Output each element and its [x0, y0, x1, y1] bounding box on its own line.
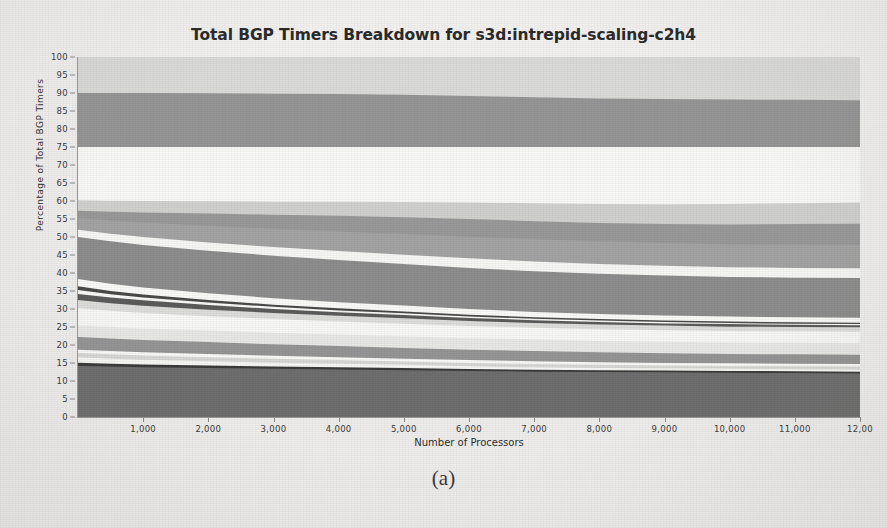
x-tick-label: 11,000 — [779, 424, 811, 434]
chart-title: Total BGP Timers Breakdown for s3d:intre… — [0, 26, 887, 44]
y-tick-label: 50 — [57, 232, 68, 242]
x-tick-mark — [534, 418, 535, 422]
y-tick-label: 40 — [57, 268, 68, 278]
x-tick-label: 9,000 — [652, 424, 678, 434]
x-tick-label: 3,000 — [261, 424, 287, 434]
x-tick-label: 1,000 — [130, 424, 156, 434]
y-tick-mark — [70, 147, 75, 148]
x-tick-label: 6,000 — [456, 424, 482, 434]
y-tick-mark — [70, 291, 75, 292]
x-tick-mark — [208, 418, 209, 422]
y-tick-label: 80 — [57, 124, 68, 134]
y-tick-mark — [70, 327, 75, 328]
y-tick-mark — [70, 237, 75, 238]
y-tick-label: 15 — [57, 358, 68, 368]
figure-caption: (a) — [0, 466, 887, 491]
x-tick-label: 4,000 — [326, 424, 352, 434]
y-tick-mark — [70, 201, 75, 202]
x-tick-mark — [404, 418, 405, 422]
y-tick-label: 30 — [57, 304, 68, 314]
y-tick-label: 95 — [57, 70, 68, 80]
x-tick-label: 5,000 — [391, 424, 417, 434]
y-tick-mark — [70, 165, 75, 166]
x-tick-mark — [795, 418, 796, 422]
x-tick-mark — [665, 418, 666, 422]
y-tick-mark — [70, 57, 75, 58]
y-tick-label: 45 — [57, 250, 68, 260]
y-tick-label: 100 — [51, 52, 68, 62]
y-tick-label: 60 — [57, 196, 68, 206]
y-tick-mark — [70, 129, 75, 130]
x-tick-label: 2,000 — [195, 424, 221, 434]
y-tick-label: 85 — [57, 106, 68, 116]
figure-chart: Total BGP Timers Breakdown for s3d:intre… — [0, 0, 887, 470]
plot-area — [78, 57, 860, 417]
x-tick-mark — [469, 418, 470, 422]
x-tick-mark — [599, 418, 600, 422]
y-tick-label: 20 — [57, 340, 68, 350]
x-tick-mark — [339, 418, 340, 422]
y-tick-mark — [70, 381, 75, 382]
y-tick-label: 70 — [57, 160, 68, 170]
x-tick-mark — [730, 418, 731, 422]
y-tick-label: 35 — [57, 286, 68, 296]
y-tick-label: 25 — [57, 322, 68, 332]
y-tick-label: 65 — [57, 178, 68, 188]
y-tick-mark — [70, 309, 75, 310]
y-tick-mark — [70, 255, 75, 256]
y-tick-label: 10 — [57, 376, 68, 386]
y-tick-mark — [70, 93, 75, 94]
y-tick-mark — [70, 219, 75, 220]
y-axis-title: Percentage of Total BGP Timers — [35, 0, 45, 325]
y-tick-label: 90 — [57, 88, 68, 98]
y-tick-mark — [70, 111, 75, 112]
area-band — [78, 366, 860, 417]
y-tick-mark — [70, 399, 75, 400]
y-tick-label: 75 — [57, 142, 68, 152]
stacked-area-svg — [78, 57, 860, 417]
x-tick-mark — [860, 418, 861, 422]
y-tick-label: 5 — [62, 394, 68, 404]
x-tick-label: 12,00 — [847, 424, 873, 434]
y-tick-mark — [70, 183, 75, 184]
x-axis-title: Number of Processors — [78, 437, 860, 448]
x-tick-label: 7,000 — [521, 424, 547, 434]
x-tick-label: 10,000 — [714, 424, 746, 434]
y-tick-label: 0 — [62, 412, 68, 422]
y-tick-mark — [70, 273, 75, 274]
y-tick-label: 55 — [57, 214, 68, 224]
y-tick-mark — [70, 345, 75, 346]
y-tick-mark — [70, 75, 75, 76]
x-tick-mark — [274, 418, 275, 422]
x-tick-label: 8,000 — [586, 424, 612, 434]
y-tick-mark — [70, 363, 75, 364]
x-tick-mark — [143, 418, 144, 422]
y-tick-mark — [70, 417, 75, 418]
